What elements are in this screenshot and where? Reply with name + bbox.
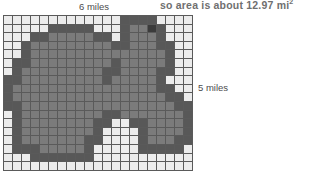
- grid-cell: [148, 111, 156, 119]
- grid-cell: [148, 162, 156, 170]
- grid-cell: [76, 162, 84, 170]
- grid-cell: [103, 119, 111, 127]
- grid-cell: [85, 136, 93, 144]
- grid-cell: [103, 25, 111, 33]
- grid-cell: [139, 162, 147, 170]
- grid-cell: [40, 145, 48, 153]
- grid-cell: [112, 111, 120, 119]
- grid-cell: [94, 68, 102, 76]
- grid-cell: [58, 59, 66, 67]
- grid-cell: [40, 102, 48, 110]
- grid-cell: [112, 93, 120, 101]
- grid-cell: [22, 76, 30, 84]
- grid-cell: [13, 136, 21, 144]
- grid-cell: [13, 119, 21, 127]
- grid-cell: [49, 154, 57, 162]
- grid-cell: [49, 42, 57, 50]
- grid-cell: [139, 145, 147, 153]
- grid-cell: [175, 25, 183, 33]
- grid-cell: [40, 16, 48, 24]
- grid-cell: [157, 136, 165, 144]
- grid-cell: [184, 111, 192, 119]
- grid-cell: [67, 33, 75, 41]
- area-caption-text: so area is about 12.97 mi: [160, 0, 289, 11]
- grid-cell: [121, 68, 129, 76]
- grid-cell: [166, 33, 174, 41]
- grid-cell: [4, 33, 12, 41]
- grid-cell: [4, 119, 12, 127]
- grid-cell: [22, 42, 30, 50]
- grid-cell: [175, 42, 183, 50]
- grid-cell: [130, 25, 138, 33]
- grid-cell: [157, 50, 165, 58]
- grid-cell: [157, 85, 165, 93]
- grid-cell: [67, 136, 75, 144]
- grid-cell: [139, 111, 147, 119]
- grid-cell: [184, 128, 192, 136]
- grid-cell: [112, 16, 120, 24]
- grid-cell: [157, 25, 165, 33]
- grid-cell: [121, 25, 129, 33]
- grid-cell: [31, 111, 39, 119]
- grid-cell: [67, 93, 75, 101]
- grid-cell: [94, 128, 102, 136]
- grid-cell: [103, 145, 111, 153]
- grid-cell: [148, 76, 156, 84]
- grid-cell: [148, 93, 156, 101]
- grid-cell: [175, 85, 183, 93]
- grid-cell: [148, 33, 156, 41]
- grid-cell: [184, 59, 192, 67]
- grid-cell: [76, 85, 84, 93]
- grid-cell: [94, 16, 102, 24]
- grid-cell: [139, 154, 147, 162]
- grid-cell: [40, 128, 48, 136]
- grid-cell: [139, 68, 147, 76]
- grid-cell: [121, 128, 129, 136]
- grid-cell: [58, 76, 66, 84]
- grid-cell: [85, 111, 93, 119]
- grid-cell: [40, 136, 48, 144]
- grid-cell: [22, 154, 30, 162]
- grid-cell: [139, 59, 147, 67]
- grid-cell: [157, 16, 165, 24]
- grid-cell: [4, 59, 12, 67]
- grid-cell: [31, 50, 39, 58]
- grid-cell: [31, 42, 39, 50]
- grid-cell: [121, 154, 129, 162]
- grid-cell: [94, 25, 102, 33]
- grid-cell: [184, 119, 192, 127]
- grid-cell: [103, 42, 111, 50]
- grid-cell: [148, 119, 156, 127]
- grid-cell: [184, 68, 192, 76]
- grid-cell: [103, 33, 111, 41]
- grid-cell: [31, 25, 39, 33]
- grid-cell: [67, 119, 75, 127]
- grid-cell: [175, 154, 183, 162]
- grid-cell: [31, 76, 39, 84]
- grid-cell: [4, 102, 12, 110]
- grid-cell: [13, 85, 21, 93]
- grid-cell: [58, 154, 66, 162]
- grid-cell: [130, 154, 138, 162]
- grid-cell: [49, 111, 57, 119]
- grid-cell: [148, 154, 156, 162]
- grid-cell: [175, 145, 183, 153]
- grid-cell: [94, 59, 102, 67]
- grid-cell: [13, 154, 21, 162]
- grid-cell: [103, 111, 111, 119]
- grid-cell: [175, 119, 183, 127]
- grid-cell: [85, 162, 93, 170]
- grid-cell: [139, 50, 147, 58]
- grid-cell: [58, 68, 66, 76]
- grid-cell: [4, 162, 12, 170]
- grid-cell: [94, 85, 102, 93]
- grid-cell: [175, 102, 183, 110]
- grid-cell: [40, 111, 48, 119]
- grid-cell: [94, 50, 102, 58]
- grid-cell: [166, 111, 174, 119]
- grid-cell: [85, 50, 93, 58]
- grid-cell: [157, 42, 165, 50]
- grid-cell: [130, 50, 138, 58]
- grid-cell: [13, 68, 21, 76]
- grid-cell: [76, 154, 84, 162]
